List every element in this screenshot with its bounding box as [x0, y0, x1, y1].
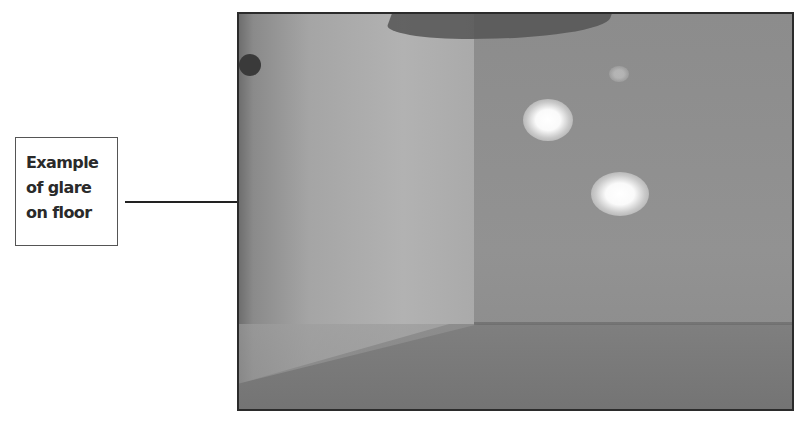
- glare-spot-faint: [609, 66, 629, 82]
- annotation-label-text: Example of glare on floor: [26, 150, 98, 225]
- room-photo: [237, 12, 794, 411]
- dark-object: [239, 54, 261, 76]
- annotation-label-box: Example of glare on floor: [15, 137, 118, 246]
- wall-floor-edge: [474, 322, 792, 325]
- glare-spot-lower: [591, 172, 649, 216]
- glare-spot-upper: [523, 99, 573, 141]
